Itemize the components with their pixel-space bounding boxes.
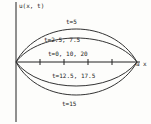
label-t12-5: t=12.5, 17.5 (52, 72, 96, 79)
label-t15: t=15 (62, 100, 77, 107)
x-end-label: a (136, 60, 140, 67)
label-t2-5: t=2.5, 7.5 (44, 36, 81, 43)
chart: u(x, t) a x t=5 t=2.5, 7.5 t=0, 10, 20 t… (0, 0, 151, 124)
label-t5: t=5 (66, 18, 77, 25)
label-t0: t=0, 10, 20 (48, 50, 88, 57)
plot-area: u(x, t) a x t=5 t=2.5, 7.5 t=0, 10, 20 t… (0, 0, 151, 124)
y-axis-label: u(x, t) (19, 2, 44, 9)
x-axis-label: x (143, 60, 147, 67)
curve-t5 (16, 29, 137, 62)
